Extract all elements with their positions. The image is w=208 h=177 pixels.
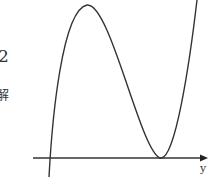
cubic-graph	[0, 0, 208, 177]
x-axis-arrow-icon	[200, 155, 208, 162]
axis-label: y	[200, 162, 206, 175]
cubic-curve	[49, 0, 197, 177]
